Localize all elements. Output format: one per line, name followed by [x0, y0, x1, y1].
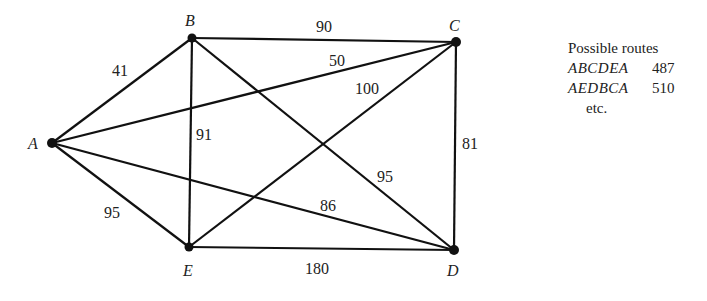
edge-A-D: [52, 143, 454, 250]
edge-A-B: [52, 38, 192, 143]
edge-C-D: [454, 42, 456, 250]
route-row: AEDBCA 510: [568, 78, 675, 98]
weight-B-E: 91: [196, 126, 212, 143]
route-name: AEDBCA: [568, 78, 652, 98]
node-label-B: B: [185, 12, 195, 29]
edge-B-D: [192, 38, 454, 250]
route-name: ABCDEA: [568, 58, 652, 78]
weight-A-B: 41: [112, 62, 128, 79]
route-row: ABCDEA 487: [568, 58, 675, 78]
weight-B-D: 95: [377, 168, 393, 185]
edge-E-D: [189, 247, 454, 250]
legend-etc: etc.: [586, 98, 675, 118]
node-label-E: E: [182, 262, 193, 279]
node-C: [451, 37, 461, 47]
node-label-D: D: [446, 262, 459, 279]
route-cost: 510: [652, 78, 675, 98]
edge-A-E: [52, 143, 189, 247]
node-E: [185, 243, 194, 252]
weight-A-D: 86: [320, 197, 336, 214]
weight-E-C: 100: [355, 80, 379, 97]
edge-A-C: [52, 42, 456, 143]
node-label-C: C: [449, 17, 460, 34]
weight-C-D: 81: [462, 135, 478, 152]
legend-title: Possible routes: [568, 38, 675, 58]
weight-A-E: 95: [104, 204, 120, 221]
edge-B-C: [192, 38, 456, 42]
edge-B-E: [189, 38, 192, 247]
node-A: [47, 138, 57, 148]
weight-A-C: 50: [329, 52, 345, 69]
node-label-A: A: [27, 135, 38, 152]
node-B: [188, 34, 197, 43]
weight-E-D: 180: [305, 260, 329, 277]
routes-legend: Possible routes ABCDEA 487 AEDBCA 510 et…: [568, 38, 675, 118]
route-cost: 487: [652, 58, 675, 78]
weight-B-C: 90: [316, 18, 332, 35]
node-D: [449, 245, 459, 255]
